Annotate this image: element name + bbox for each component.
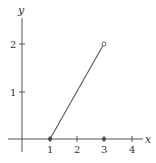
- line-segment: [50, 46, 103, 140]
- closed-dot-point: [102, 137, 106, 141]
- x-tick-label: 4: [129, 144, 135, 155]
- x-tick-label: 2: [74, 144, 80, 155]
- graph: x y 1 2 3 4 1 2: [0, 0, 156, 163]
- y-axis-label: y: [17, 4, 25, 17]
- x-tick-label: 3: [101, 144, 107, 155]
- open-dot-end: [102, 42, 106, 46]
- y-ticks: 1 2: [10, 39, 25, 98]
- closed-dot-start: [48, 137, 52, 141]
- y-tick-label: 2: [10, 39, 16, 50]
- y-tick-label: 1: [10, 87, 16, 98]
- x-axis-label: x: [145, 133, 152, 146]
- x-tick-label: 1: [47, 144, 53, 155]
